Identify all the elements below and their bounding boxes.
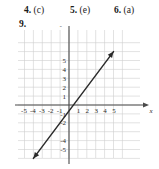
answer-value-4: (c) (34, 5, 45, 15)
y-tick-label: 2 (63, 84, 67, 92)
answer-entry-4: 4. (c) (24, 4, 44, 16)
x-axis-arrowhead (143, 102, 149, 107)
answer-entry-6: 6. (a) (114, 4, 134, 16)
y-tick-label: 5 (63, 57, 67, 65)
y-tick-label: 3 (63, 75, 67, 83)
y-tick-label: 4 (63, 66, 67, 74)
y-axis-label: y (59, 26, 64, 28)
x-tick-label: -3 (39, 107, 45, 115)
x-axis-label: x (148, 107, 153, 115)
x-tick-label: -5 (21, 107, 27, 115)
y-tick-label: 1 (63, 93, 67, 101)
coordinate-graph-figure: -5-4-3-2-112345 54321-1-2-4-5 yx (0, 26, 159, 169)
coordinate-plane-svg: -5-4-3-2-112345 54321-1-2-4-5 yx (0, 26, 159, 169)
answer-key-row: 4. (c) 5. (e) 6. (a) (0, 4, 159, 18)
answer-value-5: (e) (80, 5, 91, 15)
x-tick-label: 1 (77, 107, 81, 115)
grid-lines (18, 30, 140, 158)
answer-number-4: 4. (24, 5, 31, 15)
axes (15, 26, 149, 164)
x-tick-label: 3 (94, 107, 98, 115)
answer-number-5: 5. (70, 5, 77, 15)
y-tick-label: -4 (60, 137, 66, 145)
answer-number-6: 6. (114, 5, 121, 15)
x-tick-label: 4 (103, 107, 107, 115)
axis-name-labels: yx (59, 26, 153, 115)
x-tick-label: -2 (48, 107, 54, 115)
x-tick-label: 2 (86, 107, 90, 115)
y-tick-label: -5 (60, 146, 66, 154)
x-tick-label: 5 (112, 107, 116, 115)
answer-entry-5: 5. (e) (70, 4, 90, 16)
y-axis-tick-labels: 54321-1-2-4-5 (60, 57, 66, 154)
answer-value-6: (a) (124, 5, 135, 15)
x-tick-label: -4 (30, 107, 36, 115)
